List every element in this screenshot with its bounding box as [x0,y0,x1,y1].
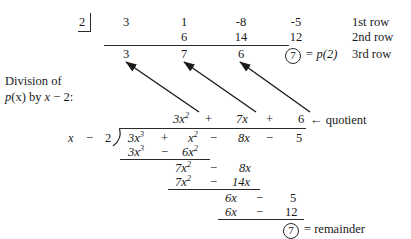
step2-a-exp: 2 [187,173,191,183]
quotient-op-2: + [266,112,273,127]
synthetic-horizontal-rule [104,45,289,46]
divisor-x: x [68,131,74,146]
step2-term-b: 14x [232,175,250,190]
caption-line-2: p(x) by x − 2: [5,90,73,105]
caption-by: by [26,90,45,104]
dividend-op-2: − [210,131,217,146]
row-label-2nd: 2nd row [352,30,393,45]
synthetic-row3-c3: 6 [231,47,251,62]
step1-op: − [161,145,168,160]
step3bring-term-a: 6x [225,191,237,206]
step3bring-a-var: x [231,191,237,205]
synthetic-row2-c3: 14 [231,30,251,45]
quotient-arrow-label: ← quotient [310,113,367,128]
synthetic-divisor-vertical-bar [90,13,91,32]
caption-rest: − 2: [50,90,73,104]
circled-seven-bottom: 7 [283,223,299,239]
dividend-term-3: 8x [238,131,250,146]
caption-paren: (x) [11,90,26,104]
synthetic-row1-c4: -5 [286,15,306,30]
remainder-circled: 7 [283,221,299,239]
quotient-op-1: + [205,112,212,127]
synthetic-row2-c4: 12 [286,30,306,45]
step3bring-term-b: 5 [290,191,296,206]
step2-op: − [210,175,217,190]
dividend-op-3: − [266,131,273,146]
quotient-term-1: 3x2 [173,112,189,127]
step2bring-op: − [210,161,217,176]
step3-a-var: x [231,205,237,219]
step2-term-a: 7x2 [175,175,191,190]
arrow-1 [126,62,199,112]
step3-term-a: 6x [225,205,237,220]
synthetic-equals-p2: = p(2) [305,47,337,62]
quotient-t2-var: x [242,112,248,126]
dividend-op-1: + [161,131,168,146]
synthetic-divisor-underline [78,31,90,32]
circled-seven-top: 7 [285,48,301,64]
synthetic-circled-result: 7 [285,46,301,64]
synthetic-row1-c1: 3 [118,15,134,30]
synthetic-row1-c2: 1 [176,15,192,30]
divisor-two: 2 [105,131,111,146]
dividend-term-4: 5 [296,131,302,146]
synthetic-division-figure: 2 3 1 -8 -5 6 14 12 3 7 6 7 = p(2) 1st r… [0,0,411,239]
row-label-1st: 1st row [352,15,389,30]
step1-b-exp: 2 [194,143,198,153]
step1-subtraction-rule [120,159,210,160]
step2bring-term-b: 8x [239,161,251,176]
dividend-t1-exp: 3 [140,129,144,139]
step2bring-a-exp: 2 [187,159,191,169]
arrow-3 [240,62,310,112]
caption-line-1: Division of [5,74,62,89]
step3-term-b: 12 [285,205,298,220]
step2-b-coef: 14 [232,175,245,189]
arrow-2 [184,62,256,112]
row-label-3rd: 3rd row [352,47,391,62]
quotient-t1-exp: 2 [185,110,189,120]
step2bring-b-var: x [245,161,251,175]
dividend-t3-var: x [244,131,250,145]
step2-subtraction-rule [168,189,260,190]
division-bracket-icon [113,129,120,147]
step1-term-b: 6x2 [182,145,198,160]
step3bring-op: − [256,191,263,206]
synthetic-row2-c2: 6 [176,30,192,45]
step3-subtraction-rule [218,219,304,220]
step1-term-a: 3x3 [128,145,144,160]
divisor-minus: − [86,131,93,146]
step2-b-var: x [245,175,251,189]
remainder-label: = remainder [304,222,365,237]
synthetic-divisor-value: 2 [79,15,85,30]
synthetic-row3-c2: 7 [176,47,192,62]
synthetic-row1-c3: -8 [231,15,251,30]
step3-op: − [256,205,263,220]
synthetic-row3-c1: 3 [118,47,134,62]
dividend-t2-exp: 2 [194,129,198,139]
long-division-vinculum [119,128,306,129]
quotient-term-3: 6 [298,112,304,127]
quotient-term-2: 7x [236,112,248,127]
step1-a-exp: 3 [140,143,144,153]
